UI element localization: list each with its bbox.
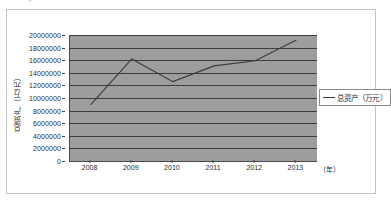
y-axis-tick-mark [62,85,65,86]
chart-frame: 总资产（万元） 02000000400000060000008000000100… [6,9,376,194]
y-axis-tick-mark [62,161,65,162]
y-axis-tick-mark [62,136,65,137]
x-axis-tick-mark [89,160,90,163]
x-axis-tick-mark [213,160,214,163]
y-axis-tick-label: 10000000 [29,95,61,102]
legend-label-total-assets: 总资产（万元） [337,92,387,103]
y-axis-tick-label: 18000000 [29,44,61,51]
y-axis-tick-label: 6000000 [33,120,61,127]
x-axis-tick-label: 2009 [123,164,139,171]
x-axis-tick-label: 2011 [206,164,221,171]
y-axis-tick-mark [62,73,65,74]
cut-off-top-text: 、、' 'l ' ',..... [4,0,65,1]
legend-line-swatch-icon [323,97,335,98]
x-axis-tick-label: 2013 [288,164,304,171]
x-axis-tick-mark [254,160,255,163]
y-axis-tick-labels: 0200000040000006000000800000010000000120… [7,35,65,161]
x-axis-tick-label: 2012 [246,164,262,171]
y-axis-tick-label: 8000000 [33,107,61,114]
x-axis-tick-mark [171,160,172,163]
legend: 总资产（万元） [319,89,391,106]
y-axis-tick-mark [62,111,65,112]
y-axis-tick-mark [62,35,65,36]
y-axis-tick-mark [62,148,65,149]
x-axis-tick-labels: 200820092010201120122013 [69,164,316,178]
y-axis-tick-label: 0 [57,158,61,165]
y-axis-tick-label: 16000000 [29,57,61,64]
y-axis-tick-mark [62,60,65,61]
y-axis-tick-label: 4000000 [33,132,61,139]
x-axis-unit-label: （年） [319,164,340,174]
y-axis-tick-label: 12000000 [29,82,61,89]
y-axis-tick-label: 2000000 [33,145,61,152]
x-axis-tick-mark [295,160,296,163]
y-axis-tick-label: 14000000 [29,69,61,76]
y-axis-tick-label: 20000000 [29,32,61,39]
y-axis-tick-mark [62,48,65,49]
x-axis-tick-label: 2010 [164,164,180,171]
y-axis-tick-mark [62,98,65,99]
y-axis-tick-mark [62,123,65,124]
series-line-total-assets [70,35,317,161]
x-axis-tick-mark [130,160,131,163]
plot-area [69,35,317,162]
x-axis-tick-label: 2008 [82,164,98,171]
